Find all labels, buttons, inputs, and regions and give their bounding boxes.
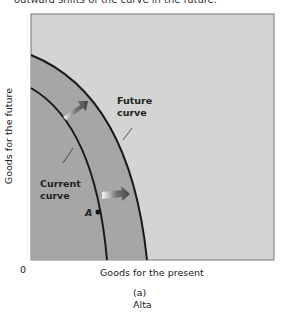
future-curve-label-line2: curve (117, 107, 152, 119)
future-curve-label-line1: Future (117, 95, 152, 107)
point-a-label: A (85, 207, 92, 219)
point-a (96, 210, 101, 215)
current-curve-label-line1: Current (40, 178, 81, 190)
current-curve-label: Current curve (40, 178, 81, 202)
origin-label: 0 (20, 264, 26, 275)
panel-label: (a) (133, 287, 146, 298)
future-curve-label: Future curve (117, 95, 152, 119)
x-axis-label: Goods for the present (100, 267, 204, 278)
panel-title: Alta (133, 299, 152, 310)
current-curve-label-line2: curve (40, 190, 81, 202)
y-axis-label: Goods for the future (3, 88, 14, 184)
